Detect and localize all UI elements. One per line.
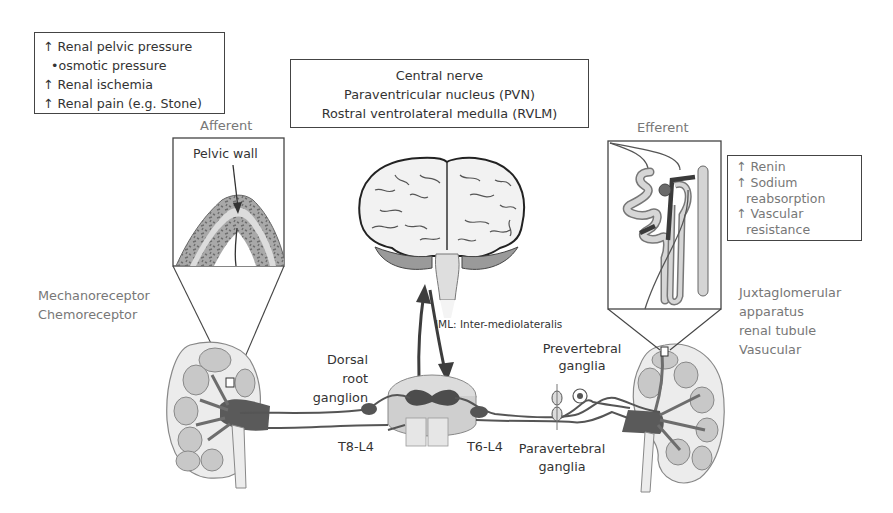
efferent-label: Efferent bbox=[637, 120, 689, 135]
receptor-labels: Mechanoreceptor Chemoreceptor bbox=[38, 286, 150, 324]
drg-line-3: ganglion bbox=[300, 388, 368, 407]
t8-l4-label: T8-L4 bbox=[338, 439, 374, 454]
apparatus-label: apparatus bbox=[739, 302, 841, 321]
effect-sodium: ↑ Sodium bbox=[736, 175, 861, 191]
prevertebral-ganglia-label: Prevertebral ganglia bbox=[540, 340, 624, 374]
effect-sodium-cont: reabsorption bbox=[736, 191, 861, 207]
paravertebral-line-2: ganglia bbox=[512, 458, 612, 476]
pelvic-wall-label: Pelvic wall bbox=[193, 147, 258, 162]
iml-label: IML: Inter-mediolateralis bbox=[435, 318, 562, 330]
pvn-label: Paraventricular nucleus (PVN) bbox=[291, 85, 588, 104]
rvlm-label: Rostral ventrolateral medulla (RVLM) bbox=[291, 104, 588, 123]
right-kidney bbox=[622, 344, 724, 492]
t6-l4-label: T6-L4 bbox=[467, 439, 503, 454]
stimulus-renal-pain: ↑ Renal pain (e.g. Stone) bbox=[43, 94, 224, 113]
efferent-effects-box: ↑ Renin ↑ Sodium reabsorption ↑ Vascular… bbox=[727, 155, 862, 241]
central-nerve-box: Central nerve Paraventricular nucleus (P… bbox=[290, 59, 589, 128]
juxtaglomerular-labels: Juxtaglomerular apparatus renal tubule V… bbox=[739, 283, 841, 359]
stimulus-renal-pelvic-pressure: ↑ Renal pelvic pressure bbox=[43, 37, 224, 56]
afferent-stimuli-box: ↑ Renal pelvic pressure •osmotic pressur… bbox=[34, 32, 225, 114]
drg-line-2: root bbox=[300, 369, 368, 388]
vascular-label: Vasucular bbox=[739, 340, 841, 359]
paravertebral-line-1: Paravertebral bbox=[512, 440, 612, 458]
prevertebral-line-2: ganglia bbox=[540, 357, 624, 374]
brain bbox=[359, 158, 524, 318]
effect-renin: ↑ Renin bbox=[736, 159, 861, 175]
renal-nerve-diagram: ↑ Renal pelvic pressure •osmotic pressur… bbox=[0, 0, 893, 513]
renal-tubule-label: renal tubule bbox=[739, 321, 841, 340]
spinal-cord bbox=[361, 375, 488, 446]
central-nerve-label: Central nerve bbox=[291, 66, 588, 85]
drg-line-1: Dorsal bbox=[300, 350, 368, 369]
stimulus-osmotic-pressure: •osmotic pressure bbox=[43, 56, 224, 75]
pelvic-wall-inset bbox=[173, 138, 286, 378]
mechanoreceptor-label: Mechanoreceptor bbox=[38, 286, 150, 305]
paravertebral-ganglia-label: Paravertebral ganglia bbox=[512, 440, 612, 476]
dorsal-root-ganglion-label: Dorsal root ganglion bbox=[300, 350, 368, 407]
chemoreceptor-label: Chemoreceptor bbox=[38, 305, 150, 324]
afferent-label: Afferent bbox=[200, 118, 252, 133]
effect-vascular: ↑ Vascular bbox=[736, 206, 861, 222]
effect-vascular-cont: resistance bbox=[736, 222, 861, 238]
prevertebral-line-1: Prevertebral bbox=[540, 340, 624, 357]
left-kidney bbox=[167, 342, 270, 488]
juxtaglomerular-label: Juxtaglomerular bbox=[739, 283, 841, 302]
stimulus-renal-ischemia: ↑ Renal ischemia bbox=[43, 75, 224, 94]
nephron-inset bbox=[608, 141, 721, 350]
